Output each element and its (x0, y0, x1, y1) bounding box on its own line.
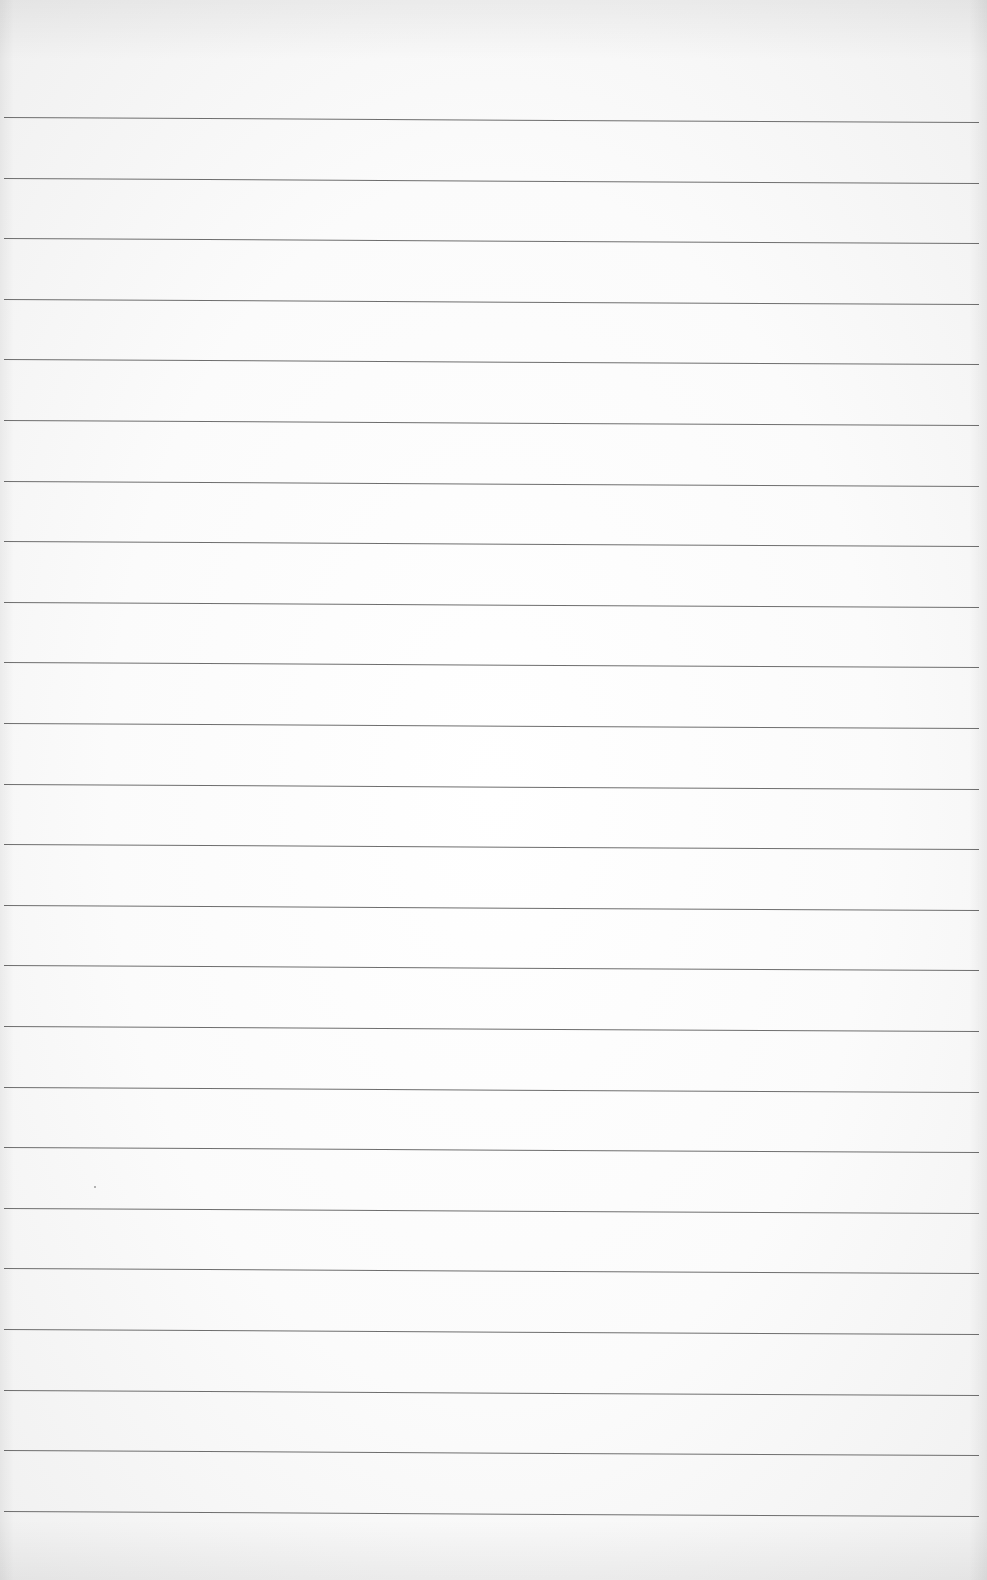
ruled-line (4, 1147, 979, 1153)
lined-paper-sheet (0, 0, 987, 1580)
ruled-line (4, 1268, 979, 1274)
ruled-line (4, 905, 979, 911)
ruled-line (4, 359, 979, 365)
ruled-line (4, 238, 979, 244)
ruled-line (4, 1511, 979, 1517)
ruled-line (4, 965, 979, 971)
ruled-line (4, 178, 979, 184)
ruled-line (4, 1450, 979, 1456)
ruled-line (4, 420, 979, 426)
ruled-line (4, 662, 979, 668)
ruled-line (4, 1208, 979, 1214)
ruled-line (4, 844, 979, 850)
ruled-line (4, 541, 979, 547)
ruled-line (4, 1087, 979, 1093)
paper-speck (94, 1186, 96, 1188)
ruled-line (4, 1390, 979, 1396)
ruled-line (4, 602, 979, 608)
ruled-line (4, 784, 979, 790)
ruled-line (4, 299, 979, 305)
ruled-line (4, 1026, 979, 1032)
ruled-line (4, 723, 979, 729)
ruled-line (4, 481, 979, 487)
ruled-line (4, 117, 979, 123)
ruled-line (4, 1329, 979, 1335)
